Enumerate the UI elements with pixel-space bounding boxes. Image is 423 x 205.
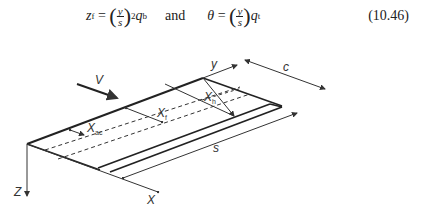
trailing-edge-1 [98,104,270,168]
label-x-ac-sub: ac [95,129,103,136]
x-ac-arrow [70,130,84,135]
label-z: Z [13,185,22,199]
leading-edge [27,78,203,144]
label-s: s [213,141,219,155]
x-axis [27,144,158,192]
wing-diagram: V y c s Z X X ac X f X h [0,0,423,205]
label-y: y [210,57,218,71]
trailing-edge-2 [110,107,282,172]
y-axis [203,65,237,78]
label-c: c [283,60,289,74]
label-x: X [146,193,156,205]
label-x-h-sub: h [212,98,216,105]
span-dimension [123,113,297,178]
label-v: V [95,73,104,87]
label-x-f-sub: f [165,114,167,121]
